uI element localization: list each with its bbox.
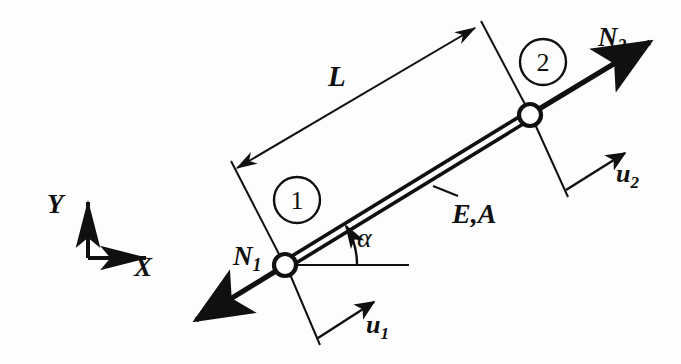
element-number-1: 1 — [286, 188, 308, 214]
force-label-node-1-subscript: 1 — [253, 255, 262, 275]
length-label: L — [328, 62, 346, 91]
angle-label: α — [357, 224, 372, 252]
figure-canvas — [0, 0, 681, 364]
perpendicular-line-node-2 — [534, 122, 568, 197]
element-number-2: 2 — [532, 50, 554, 76]
force-arrow-node-2 — [539, 42, 650, 109]
global-axes — [88, 202, 146, 258]
force-label-node-1: N1 — [233, 243, 261, 275]
displacement-label-node-2-subscript: 2 — [630, 173, 639, 192]
node-marker-1 — [274, 254, 296, 276]
displacement-label-node-2: u2 — [616, 161, 639, 191]
force-label-node-1-symbol: N — [233, 241, 253, 271]
bar-edge-upper — [287, 109, 532, 259]
displacement-label-node-1-symbol: u — [366, 310, 380, 339]
force-label-node-2-symbol: N — [598, 22, 618, 52]
truss-element-figure: L N1 N2 u1 u2 E,A α X Y 1 2 — [0, 0, 681, 364]
displacement-label-node-1-subscript: 1 — [380, 324, 389, 343]
displacement-node-2 — [534, 122, 625, 197]
perpendicular-line-node-1 — [289, 272, 320, 345]
displacement-label-node-1: u1 — [366, 312, 389, 342]
dimension-line-L — [237, 28, 475, 168]
node-marker-2 — [519, 104, 541, 126]
axis-y-label: Y — [47, 191, 64, 218]
material-section-label: E,A — [452, 200, 496, 228]
force-label-node-2: N2 — [598, 24, 626, 56]
bar-element — [283, 109, 532, 271]
force-arrow-node-1 — [196, 271, 276, 320]
axis-x-label: X — [134, 254, 152, 281]
displacement-node-1 — [289, 272, 374, 345]
material-leader-line — [433, 186, 458, 196]
force-label-node-2-subscript: 2 — [618, 36, 627, 56]
displacement-label-node-2-symbol: u — [616, 159, 630, 188]
